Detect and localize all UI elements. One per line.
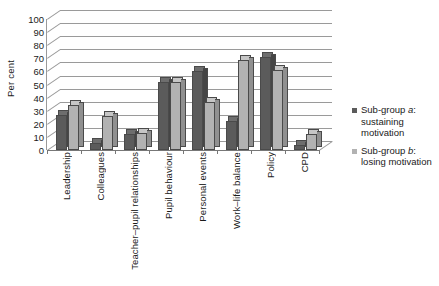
- bar: [238, 55, 249, 150]
- y-tick-label: 90: [33, 28, 44, 37]
- bar: [90, 138, 101, 150]
- bar: [260, 52, 271, 150]
- bar-side: [113, 113, 118, 147]
- bar: [68, 100, 79, 150]
- bar-face: [136, 133, 147, 150]
- bar-face: [170, 82, 181, 150]
- depth-edge: [47, 23, 61, 33]
- bar-face: [192, 71, 203, 150]
- bar-side: [215, 99, 220, 147]
- bar-face: [102, 116, 113, 150]
- bar-face: [306, 134, 317, 150]
- legend-label-colon: :: [413, 145, 416, 156]
- depth-edge: [47, 76, 61, 86]
- legend-entry[interactable]: Sub-group a: sustaining motivation: [352, 104, 438, 139]
- bar: [226, 116, 237, 150]
- y-tick-label: 30: [33, 107, 44, 116]
- bar-face: [272, 70, 283, 150]
- y-axis-title: Per cent: [2, 44, 18, 114]
- bar-face: [68, 105, 79, 150]
- x-category-label: Teacher–pupil relationships: [129, 152, 140, 270]
- y-tick-label: 0: [39, 146, 44, 155]
- depth-edge: [47, 36, 61, 46]
- chart-figure: Per cent 1009080706050403020100 Leadersh…: [0, 0, 439, 286]
- bar: [158, 77, 169, 150]
- y-tick-label: 60: [33, 67, 44, 76]
- legend-label-colon: :: [413, 104, 416, 115]
- depth-edge: [47, 10, 61, 20]
- legend-swatch-icon: [352, 149, 357, 154]
- chart-legend: Sub-group a: sustaining motivationSub-gr…: [352, 104, 438, 174]
- legend-label-description: losing motivation: [361, 156, 432, 167]
- x-category-label: Pupil behaviour: [163, 152, 174, 219]
- gridline: [60, 23, 332, 24]
- y-axis-tick-labels: 1009080706050403020100: [18, 10, 44, 146]
- y-tick-label: 100: [28, 15, 44, 24]
- x-category-label: CPD: [299, 152, 310, 172]
- bar-side: [79, 102, 84, 147]
- x-category-label: Personal events: [197, 152, 208, 222]
- gridline: [60, 62, 332, 63]
- bar-face: [158, 82, 169, 150]
- bar-side: [283, 67, 288, 147]
- depth-edge: [47, 62, 61, 72]
- depth-edge: [47, 89, 61, 99]
- bar: [136, 128, 147, 150]
- bar-face: [294, 145, 305, 150]
- legend-label-description: sustaining motivation: [361, 116, 404, 139]
- x-category-label: Work–life balance: [231, 152, 242, 229]
- bar: [204, 97, 215, 150]
- bar: [306, 129, 317, 150]
- bar-side: [181, 79, 186, 147]
- y-tick-label: 40: [33, 94, 44, 103]
- bar-face: [124, 134, 135, 150]
- legend-label: Sub-group b: losing motivation: [361, 145, 438, 168]
- bar: [124, 129, 135, 150]
- x-axis-category-labels: LeadershipColleaguesTeacher–pupil relati…: [47, 152, 332, 272]
- y-tick-label: 70: [33, 54, 44, 63]
- bar-face: [204, 102, 215, 150]
- bar-side: [249, 57, 254, 147]
- bar: [170, 77, 181, 150]
- bar: [102, 111, 113, 150]
- legend-label: Sub-group a: sustaining motivation: [361, 104, 438, 139]
- legend-label-prefix: Sub-group: [361, 145, 408, 156]
- legend-swatch-icon: [352, 108, 357, 113]
- legend-entry[interactable]: Sub-group b: losing motivation: [352, 145, 438, 168]
- bar-face: [226, 121, 237, 150]
- bar-face: [90, 143, 101, 150]
- bar-face: [260, 57, 271, 150]
- gridline: [60, 36, 332, 37]
- bar-side: [317, 131, 322, 147]
- bar: [192, 66, 203, 150]
- y-tick-label: 20: [33, 120, 44, 129]
- y-axis-line: [46, 19, 47, 150]
- x-category-label: Colleagues: [95, 152, 106, 201]
- y-tick-label: 50: [33, 81, 44, 90]
- gridline: [60, 49, 332, 50]
- x-category-label: Policy: [265, 152, 276, 178]
- depth-edge: [47, 49, 61, 59]
- bar: [272, 65, 283, 150]
- bar: [294, 140, 305, 150]
- gridline: [60, 10, 332, 11]
- bar-face: [56, 115, 67, 150]
- bar: [56, 110, 67, 150]
- y-tick-label: 10: [33, 133, 44, 142]
- bar-side: [147, 130, 152, 147]
- bar-face: [238, 60, 249, 150]
- x-category-label: Leadership: [61, 152, 72, 200]
- plot-area: [47, 10, 332, 150]
- y-tick-label: 80: [33, 41, 44, 50]
- legend-label-prefix: Sub-group: [361, 104, 408, 115]
